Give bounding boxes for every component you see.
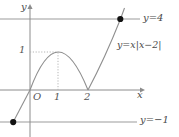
label-line-y-equals-4: y=4: [143, 13, 163, 23]
origin-label: O: [33, 92, 41, 102]
label-line-y-equals-minus-1: y=−1: [140, 115, 169, 125]
x-tick-label-2: 2: [84, 92, 90, 102]
point-intersection-y4: [117, 16, 123, 22]
label-curve-equation: y=x|x−2|: [117, 40, 161, 50]
x-axis-label: x: [137, 90, 143, 100]
math-figure: y x O 1 2 1 y=4 y=−1 y=x|x−2|: [0, 0, 179, 137]
y-axis-label: y: [21, 2, 27, 12]
curve-branch-left: [13, 90, 30, 122]
y-axis-arrow-icon: [27, 4, 32, 9]
y-tick-label-1: 1: [19, 45, 25, 55]
curve-arch: [30, 52, 88, 90]
x-tick-label-1: 1: [54, 92, 60, 102]
point-intersection-ym1: [10, 119, 16, 125]
